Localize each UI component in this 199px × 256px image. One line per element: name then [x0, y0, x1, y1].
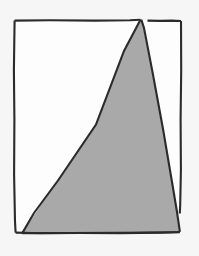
- figure-canvas: Triangle inscribed in rectangle: [0, 0, 199, 256]
- geometric-figure: [0, 0, 199, 256]
- triangle-base-edge: [22, 232, 180, 233]
- rectangle-top-edge-left: [15, 20, 141, 21]
